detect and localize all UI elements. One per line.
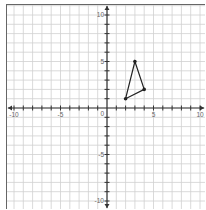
x-tick-label: -5 bbox=[58, 111, 64, 118]
y-tick-label: 5 bbox=[100, 58, 104, 65]
vertex-point bbox=[124, 97, 128, 101]
origin-label: 0 bbox=[100, 110, 104, 117]
y-tick-label: 10 bbox=[97, 11, 105, 18]
coordinate-plane: -10-55100-10-5510 bbox=[0, 0, 205, 209]
x-tick-label: 10 bbox=[196, 111, 204, 118]
y-tick-label: -10 bbox=[95, 197, 105, 204]
plot-border bbox=[7, 5, 206, 210]
vertex-point bbox=[142, 88, 146, 92]
y-axis-arrow-up-icon bbox=[105, 6, 110, 10]
axes bbox=[8, 6, 204, 208]
grid-lines bbox=[6, 4, 205, 209]
y-tick-label: -5 bbox=[98, 151, 104, 158]
x-axis-arrow-right-icon bbox=[200, 106, 204, 111]
x-axis-arrow-left-icon bbox=[8, 106, 12, 111]
vertex-point bbox=[133, 60, 137, 64]
y-axis-arrow-down-icon bbox=[105, 204, 110, 208]
x-tick-label: -10 bbox=[9, 111, 19, 118]
x-tick-label: 5 bbox=[152, 111, 156, 118]
